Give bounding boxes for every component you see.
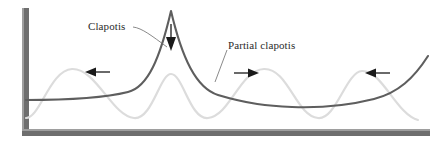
y-axis-highlight — [22, 8, 24, 136]
clapotis-label: Clapotis — [88, 20, 125, 32]
clapotis-diagram: Clapotis Partial clapotis — [0, 0, 439, 142]
clapotis-envelope-curve — [26, 11, 428, 107]
partial-clapotis-leader-line — [215, 50, 227, 82]
partial-clapotis-label: Partial clapotis — [228, 39, 295, 51]
arrow-right-icon — [234, 69, 259, 78]
arrow-left-icon — [365, 69, 390, 78]
diagram-canvas — [0, 0, 439, 142]
x-axis-highlight — [22, 129, 430, 131]
standing-wave-curve — [26, 69, 418, 120]
